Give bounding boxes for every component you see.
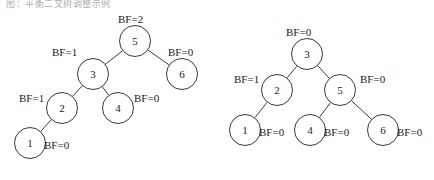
- balance-factor-label: BF=1: [52, 46, 77, 58]
- tree-edge: [318, 66, 329, 78]
- figure-canvas: 图：平衡二叉树调整示例 5BF=23BF=16BF=02BF=14BF=01BF…: [0, 0, 434, 180]
- tree-edge: [41, 120, 51, 131]
- tree-edges-layer: [0, 0, 434, 180]
- balance-factor-label: BF=0: [44, 139, 69, 151]
- tree-node-4: 4: [102, 92, 134, 124]
- balance-factor-label: BF=0: [360, 73, 385, 85]
- balance-factor-label: BF=0: [259, 126, 284, 138]
- tree-node-1: 1: [229, 114, 261, 146]
- balance-factor-label: BF=0: [168, 46, 193, 58]
- balance-factor-label: BF=0: [397, 126, 422, 138]
- balance-factor-label: BF=2: [118, 13, 143, 25]
- tree-node-5: 5: [324, 74, 356, 106]
- balance-factor-label: BF=0: [286, 26, 311, 38]
- tree-edge: [320, 103, 331, 117]
- tree-node-1: 1: [14, 127, 46, 159]
- tree-node-2: 2: [46, 92, 78, 124]
- balance-factor-label: BF=0: [324, 126, 349, 138]
- tree-edge: [102, 87, 108, 95]
- balance-factor-label: BF=1: [234, 73, 259, 85]
- tree-node-3: 3: [291, 38, 323, 70]
- tree-edge: [287, 66, 297, 77]
- tree-node-2: 2: [261, 74, 293, 106]
- balance-factor-label: BF=1: [19, 92, 44, 104]
- tree-edge: [73, 86, 82, 96]
- balance-factor-label: BF=0: [134, 92, 159, 104]
- tree-node-5: 5: [119, 25, 151, 57]
- tree-node-3: 3: [77, 58, 109, 90]
- tree-edge: [352, 101, 372, 119]
- tree-edge: [148, 50, 169, 65]
- tree-node-6: 6: [166, 58, 198, 90]
- tree-edge: [255, 102, 267, 117]
- tree-node-4: 4: [294, 114, 326, 146]
- tree-node-6: 6: [367, 114, 399, 146]
- tree-edge: [106, 51, 123, 64]
